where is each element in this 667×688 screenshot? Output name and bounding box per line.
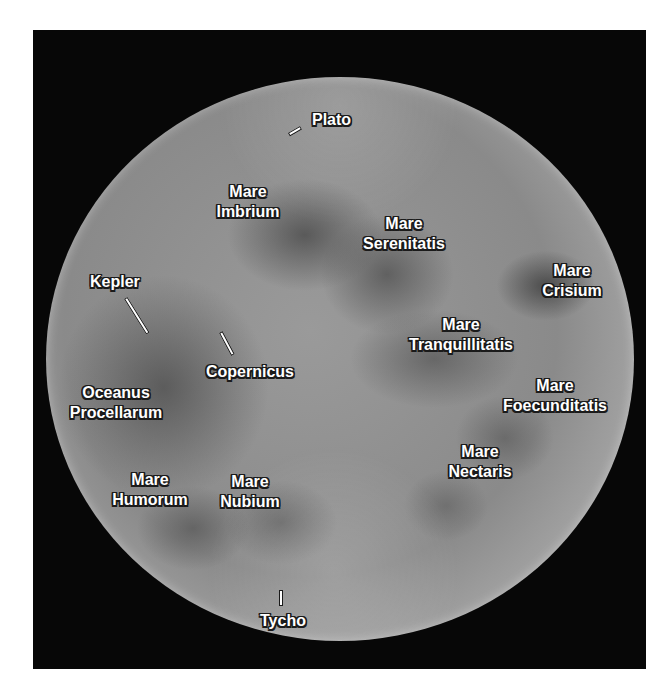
label-mare-foecunditatis: Mare Foecunditatis — [490, 376, 620, 416]
label-mare-crisium: Mare Crisium — [532, 261, 612, 301]
label-mare-tranquillitatis-line2: Tranquillitatis — [393, 335, 529, 355]
label-mare-tranquillitatis: Mare Tranquillitatis — [393, 315, 529, 355]
label-mare-serenitatis-line1: Mare — [352, 214, 456, 234]
moon-disc — [46, 77, 634, 641]
label-mare-serenitatis-line2: Serenitatis — [352, 234, 456, 254]
label-mare-nubium: Mare Nubium — [210, 472, 290, 512]
label-mare-nectaris-line2: Nectaris — [437, 462, 523, 482]
label-mare-imbrium: Mare Imbrium — [203, 182, 293, 222]
label-copernicus-text: Copernicus — [206, 362, 294, 382]
label-mare-nubium-line2: Nubium — [210, 492, 290, 512]
label-tycho: Tycho — [260, 611, 306, 631]
label-mare-foecunditatis-line1: Mare — [490, 376, 620, 396]
label-plato: Plato — [312, 110, 351, 130]
label-mare-humorum-line1: Mare — [101, 470, 199, 490]
label-oceanus-procellarum: Oceanus Procellarum — [60, 383, 172, 423]
label-oceanus-procellarum-line1: Oceanus — [60, 383, 172, 403]
label-plato-text: Plato — [312, 110, 351, 130]
label-mare-humorum-line2: Humorum — [101, 490, 199, 510]
label-mare-humorum: Mare Humorum — [101, 470, 199, 510]
label-mare-tranquillitatis-line1: Mare — [393, 315, 529, 335]
label-mare-foecunditatis-line2: Foecunditatis — [490, 396, 620, 416]
label-mare-imbrium-line2: Imbrium — [203, 202, 293, 222]
tycho-pointer — [279, 590, 283, 606]
label-mare-nectaris-line1: Mare — [437, 442, 523, 462]
label-mare-crisium-line2: Crisium — [532, 281, 612, 301]
label-mare-nectaris: Mare Nectaris — [437, 442, 523, 482]
label-mare-nubium-line1: Mare — [210, 472, 290, 492]
label-copernicus: Copernicus — [206, 362, 294, 382]
label-kepler: Kepler — [90, 272, 140, 292]
label-tycho-text: Tycho — [260, 611, 306, 631]
label-oceanus-procellarum-line2: Procellarum — [60, 403, 172, 423]
label-kepler-text: Kepler — [90, 272, 140, 292]
label-mare-crisium-line1: Mare — [532, 261, 612, 281]
label-mare-imbrium-line1: Mare — [203, 182, 293, 202]
label-mare-serenitatis: Mare Serenitatis — [352, 214, 456, 254]
